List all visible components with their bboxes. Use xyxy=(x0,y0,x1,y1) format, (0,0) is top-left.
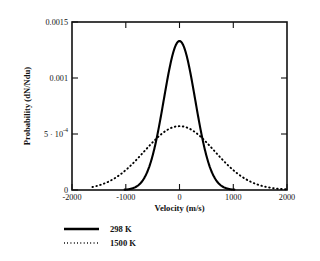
x-axis-ticks-top xyxy=(126,22,234,28)
y-tick-label-0.0015: 0.0015 xyxy=(45,18,68,27)
legend-label-298k: 298 K xyxy=(110,224,132,234)
x-tick-label-2000: 2000 xyxy=(279,193,295,202)
x-tick-label-1000: 1000 xyxy=(225,193,241,202)
y-axis-title: Probability (dN/Ndu) xyxy=(22,67,32,146)
y-axis-ticks xyxy=(72,22,78,190)
velocity-distribution-figure: -2000 -1000 0 1000 2000 0 5 · 10 -4 0.00… xyxy=(0,0,320,261)
curve-298k xyxy=(125,41,235,190)
chart-canvas: -2000 -1000 0 1000 2000 0 5 · 10 -4 0.00… xyxy=(0,0,320,261)
x-axis-ticks xyxy=(72,184,287,190)
curve-1500k xyxy=(92,126,287,189)
legend-label-1500k: 1500 K xyxy=(110,238,136,248)
y-tick-label-5e-4-mantissa: 5 · 10 xyxy=(44,130,63,139)
y-axis-ticks-right xyxy=(281,78,287,134)
x-tick-label-0: 0 xyxy=(177,193,181,202)
y-tick-label-0: 0 xyxy=(64,186,68,195)
x-axis-title: Velocity (m/s) xyxy=(154,203,204,213)
plot-frame xyxy=(72,22,287,190)
x-tick-label-minus1000: -1000 xyxy=(116,193,135,202)
y-tick-label-0.001: 0.001 xyxy=(50,74,68,83)
y-tick-label-5e-4: 5 · 10 -4 xyxy=(44,127,68,139)
y-tick-label-5e-4-exponent: -4 xyxy=(63,127,68,133)
legend: 298 K 1500 K xyxy=(64,224,136,248)
